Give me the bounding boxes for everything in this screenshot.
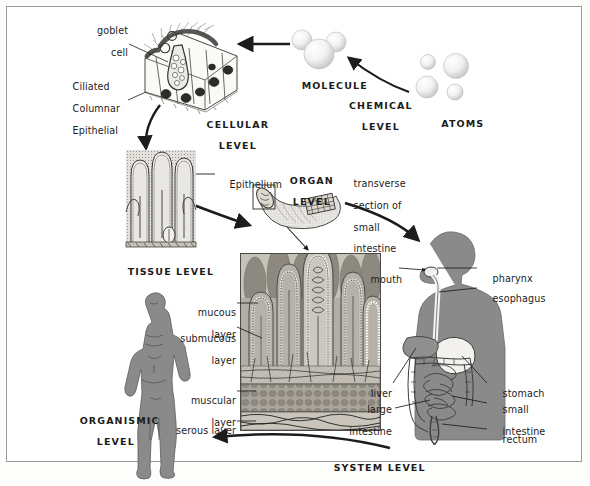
label-large-intestine: large intestine [330,394,392,449]
label-transverse-section: transverse section of small intestine [341,168,411,266]
caption-cellular-level: CELLULAR LEVEL [186,109,272,163]
label-ciliated-columnar-epithelial: Ciliated Columnar Epithelial [60,71,130,147]
caption-organismic-level: ORGANISMIC LEVEL [62,405,152,459]
label-rectum: rectum [490,424,537,457]
caption-tissue-level: TISSUE LEVEL [110,256,214,288]
caption-organ-level: ORGAN LEVEL [270,165,336,219]
diagram-canvas: goblet cell Ciliated Columnar Epithelial… [0,0,590,486]
label-mouth: mouth [358,264,398,297]
caption-system-level: SYSTEM LEVEL [316,452,416,484]
label-serous-layer: serous layer [158,415,236,448]
label-submucous-layer: submucous layer [164,323,236,378]
label-esophagus: esophagus [480,283,546,316]
caption-chemical-level: CHEMICAL LEVEL [330,90,414,144]
label-goblet-cell: goblet cell [62,15,128,70]
caption-atoms: ATOMS [418,108,490,140]
